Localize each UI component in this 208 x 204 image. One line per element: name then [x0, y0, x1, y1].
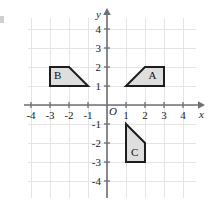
shape-polygon-a: [126, 67, 164, 86]
x-tick-label: -2: [64, 109, 73, 121]
coordinate-plane-figure: -4-3-2-112344321-1-2-3-4 x y O ABC: [0, 0, 208, 204]
x-tick-label: 3: [161, 109, 167, 121]
y-tick-label: -1: [92, 118, 101, 130]
y-axis-label: y: [95, 8, 101, 20]
shape-label-a: A: [149, 69, 157, 81]
x-tick-label: -4: [26, 109, 36, 121]
y-tick-label: -4: [92, 175, 102, 187]
x-axis-label: x: [198, 108, 204, 120]
shape-a: A: [126, 67, 164, 86]
axes: [24, 8, 205, 198]
page-edge-artifact: [0, 16, 4, 23]
y-tick-label: 3: [96, 42, 102, 54]
y-tick-label: -2: [92, 137, 101, 149]
y-tick-label: -3: [92, 156, 102, 168]
y-tick-label: 4: [96, 23, 102, 35]
shape-label-b: B: [54, 69, 61, 81]
y-tick-label: 2: [96, 61, 102, 73]
x-tick-label: -3: [45, 109, 55, 121]
coordinate-grid-svg: -4-3-2-112344321-1-2-3-4 x y O ABC: [0, 0, 208, 204]
x-tick-label: 4: [180, 109, 186, 121]
shape-label-c: C: [131, 146, 138, 158]
y-tick-label: 1: [96, 80, 102, 92]
shape-c: C: [126, 124, 145, 162]
x-tick-label: 2: [142, 109, 148, 121]
shape-b: B: [50, 67, 88, 86]
x-tick-label: 1: [123, 109, 129, 121]
origin-label: O: [109, 105, 117, 117]
y-axis-arrow-icon: [103, 8, 111, 15]
